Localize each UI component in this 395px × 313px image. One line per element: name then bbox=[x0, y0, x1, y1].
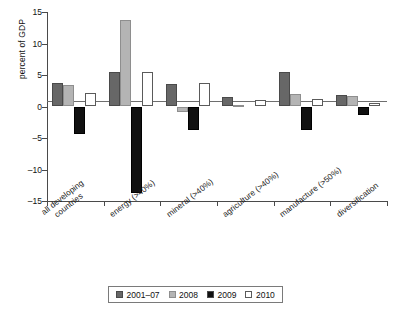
bar bbox=[301, 107, 312, 131]
x-tick-mark bbox=[274, 201, 275, 206]
bar bbox=[131, 107, 142, 193]
bar bbox=[358, 107, 369, 115]
bar bbox=[255, 100, 266, 106]
legend-label: 2001–07 bbox=[127, 290, 160, 300]
bar-group bbox=[279, 12, 323, 201]
x-tick-mark bbox=[330, 201, 331, 206]
bar bbox=[120, 20, 131, 107]
legend-item: 2008 bbox=[169, 290, 198, 300]
bar-chart: percent of GDP 151050–5–10–15 all develo… bbox=[0, 0, 395, 313]
swatch-white-icon bbox=[245, 291, 252, 298]
x-tick-mark bbox=[387, 201, 388, 206]
bar-group bbox=[109, 12, 153, 201]
bar bbox=[336, 95, 347, 107]
bar bbox=[52, 83, 63, 106]
bar bbox=[290, 94, 301, 107]
x-tick-mark bbox=[160, 201, 161, 206]
legend-item: 2009 bbox=[207, 290, 236, 300]
bar bbox=[279, 72, 290, 107]
bar-group bbox=[166, 12, 210, 201]
bar bbox=[188, 107, 199, 131]
legend-label: 2009 bbox=[218, 290, 237, 300]
y-tick-label: –5 bbox=[16, 133, 42, 143]
bar bbox=[177, 107, 188, 113]
y-tick-label: –10 bbox=[16, 165, 42, 175]
bar bbox=[85, 93, 96, 106]
bar bbox=[63, 85, 74, 106]
bar bbox=[74, 107, 85, 135]
y-tick-label: –15 bbox=[16, 196, 42, 206]
legend: 2001–07200820092010 bbox=[108, 286, 283, 303]
bar bbox=[312, 99, 323, 107]
bar bbox=[347, 96, 358, 106]
bar bbox=[369, 103, 380, 107]
bar-group bbox=[222, 12, 266, 201]
bar bbox=[222, 97, 233, 106]
x-tick-mark bbox=[104, 201, 105, 206]
legend-label: 2008 bbox=[179, 290, 198, 300]
bar bbox=[199, 83, 210, 107]
bar bbox=[233, 105, 244, 107]
y-tick-label: 0 bbox=[16, 102, 42, 112]
y-tick-label: 15 bbox=[16, 7, 42, 17]
swatch-light-gray-icon bbox=[169, 291, 176, 298]
y-tick-label: 5 bbox=[16, 70, 42, 80]
legend-item: 2001–07 bbox=[116, 290, 160, 300]
bar bbox=[109, 72, 120, 107]
swatch-dark-gray-icon bbox=[116, 291, 123, 298]
x-tick-mark bbox=[217, 201, 218, 206]
legend-label: 2010 bbox=[256, 290, 275, 300]
legend-item: 2010 bbox=[245, 290, 274, 300]
swatch-black-icon bbox=[207, 291, 214, 298]
y-tick-label: 10 bbox=[16, 39, 42, 49]
bar bbox=[166, 84, 177, 107]
bar bbox=[142, 72, 153, 107]
